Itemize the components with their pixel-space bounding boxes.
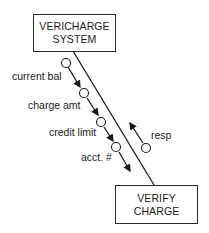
call-connector-line <box>73 51 154 185</box>
couple-label-acct: acct. # <box>81 151 112 163</box>
module-label-line2: SYSTEM <box>53 33 97 46</box>
module-label-line2: CHARGE <box>134 205 180 218</box>
couple-label-resp: resp <box>151 129 171 141</box>
module-label-line1: VERICHARGE <box>39 20 109 33</box>
couple-circle-credit-limit <box>97 118 106 127</box>
couple-label-current-bal: current bal <box>12 70 62 82</box>
couple-circle-charge-amt <box>80 89 89 98</box>
module-label-line1: VERIFY <box>137 192 176 205</box>
couple-label-credit-limit: credit limit <box>49 126 96 138</box>
upward-couple-arrow <box>130 123 143 143</box>
couple-circle-current-bal <box>62 59 71 68</box>
module-vericharge-system: VERICHARGE SYSTEM <box>33 14 116 52</box>
couple-circle-resp <box>142 144 151 153</box>
module-verify-charge: VERIFY CHARGE <box>115 185 198 224</box>
couple-circle-acct <box>112 143 121 152</box>
couple-label-charge-amt: charge amt <box>28 99 81 111</box>
